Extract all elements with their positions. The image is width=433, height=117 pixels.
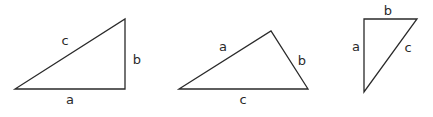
side-label-b: b xyxy=(133,52,141,67)
side-label-b: b xyxy=(298,53,306,68)
side-label-c: c xyxy=(61,33,68,48)
right-triangle-1: c b a xyxy=(15,19,141,107)
side-label-a: a xyxy=(352,39,360,54)
right-triangle-2: b a c xyxy=(352,3,417,93)
side-label-c: c xyxy=(404,40,411,55)
side-label-a: a xyxy=(219,39,227,54)
side-label-b: b xyxy=(384,3,392,18)
triangle-outline xyxy=(179,31,308,89)
obtuse-triangle: a b c xyxy=(179,31,308,107)
triangle-outline xyxy=(15,19,125,89)
side-label-a: a xyxy=(66,92,74,107)
triangle-outline xyxy=(364,19,417,92)
side-label-c: c xyxy=(239,92,246,107)
triangles-diagram: c b a a b c b a c xyxy=(0,0,433,117)
